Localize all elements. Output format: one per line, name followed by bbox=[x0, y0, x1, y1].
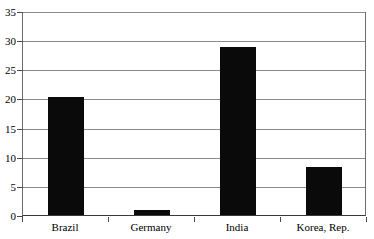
x-tick-label-0: Brazil bbox=[52, 221, 79, 234]
y-tick-label-15: 15 bbox=[5, 123, 16, 134]
y-tick-label-5: 5 bbox=[11, 181, 17, 192]
y-tick-mark-25 bbox=[17, 70, 23, 71]
y-tick-mark-30 bbox=[17, 41, 23, 42]
bar-germany bbox=[134, 210, 170, 215]
bar-india bbox=[220, 47, 256, 215]
plot-area bbox=[22, 12, 366, 216]
y-tick-mark-5 bbox=[17, 187, 23, 188]
cropped-chart-title bbox=[0, 0, 374, 7]
x-tick-mark-2 bbox=[194, 217, 195, 222]
y-tick-mark-10 bbox=[17, 158, 23, 159]
y-tick-mark-35 bbox=[17, 12, 23, 13]
bar-korea-rep bbox=[306, 167, 342, 215]
x-tick-mark-0 bbox=[22, 217, 23, 222]
y-tick-label-0: 0 bbox=[11, 211, 17, 222]
bar-chart: 05101520253035 BrazilGermanyIndiaKorea, … bbox=[0, 0, 374, 239]
x-tick-label-1: Germany bbox=[131, 221, 172, 234]
bar-brazil bbox=[48, 97, 84, 215]
gridline-25 bbox=[23, 70, 365, 71]
y-tick-mark-20 bbox=[17, 99, 23, 100]
gridline-35 bbox=[23, 12, 365, 13]
x-tick-mark-1 bbox=[108, 217, 109, 222]
y-tick-label-25: 25 bbox=[5, 65, 16, 76]
x-tick-mark-3 bbox=[280, 217, 281, 222]
x-tick-label-2: India bbox=[226, 221, 249, 234]
y-tick-label-35: 35 bbox=[5, 7, 16, 18]
x-tick-label-3: Korea, Rep. bbox=[297, 221, 350, 234]
y-axis: 05101520253035 bbox=[0, 0, 22, 239]
y-tick-label-10: 10 bbox=[5, 152, 16, 163]
y-tick-mark-15 bbox=[17, 129, 23, 130]
y-tick-label-30: 30 bbox=[5, 36, 16, 47]
x-tick-mark-4 bbox=[366, 217, 367, 222]
y-tick-label-20: 20 bbox=[5, 94, 16, 105]
gridline-30 bbox=[23, 41, 365, 42]
